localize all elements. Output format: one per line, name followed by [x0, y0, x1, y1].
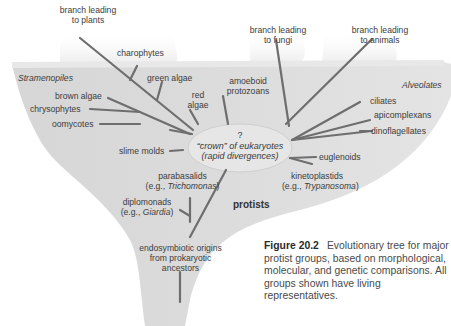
- kinetoplastids-line1: kinetoplastids: [282, 171, 352, 181]
- group-stramenopiles: Stramenopiles: [18, 73, 73, 83]
- label-oomycotes: oomycotes: [52, 119, 94, 129]
- branch-animals-line1: branch leading: [345, 25, 415, 35]
- label-diplomonads: diplomonads (e.g., Giardia): [116, 197, 178, 217]
- crown-line2: (rapid divergences): [188, 151, 292, 162]
- parabasalids-close: ): [217, 181, 220, 191]
- label-parabasalids: parabasalids (e.g., Trichomonas): [140, 171, 225, 191]
- crown-label: ? “crown” of eukaryotes (rapid divergenc…: [188, 130, 292, 162]
- red-algae-line2: algae: [186, 100, 210, 110]
- kinetoplastids-close: ): [356, 181, 359, 191]
- parabasalids-example: (e.g., Trichomonas): [140, 181, 225, 191]
- label-ciliates: ciliates: [370, 96, 396, 106]
- label-endosymbiotic-origins: endosymbiotic origins from prokaryotic a…: [133, 243, 228, 273]
- label-slime-molds: slime molds: [119, 146, 164, 156]
- kinetoplastids-example: (e.g., Trypanosoma): [282, 181, 352, 191]
- crown-question-mark: ?: [188, 130, 292, 141]
- parabasalids-genus: Trichomonas: [168, 181, 217, 191]
- diplomonads-genus: Giardia: [143, 207, 171, 217]
- label-chrysophytes: chrysophytes: [30, 104, 81, 114]
- label-kinetoplastids: kinetoplastids (e.g., Trypanosoma): [282, 171, 352, 191]
- branch-plants-label: branch leading to plants: [48, 5, 128, 25]
- branch-fungi-line2: to fungi: [243, 35, 313, 45]
- kinetoplastids-genus: Trypanosoma: [304, 181, 356, 191]
- protists-label: protists: [233, 199, 270, 210]
- figure-number: Figure 20.2: [264, 240, 319, 251]
- label-green-algae: green algae: [147, 73, 192, 83]
- amoeboid-line2: protozoans: [217, 86, 279, 96]
- endosymbiotic-line1: endosymbiotic origins: [133, 243, 228, 253]
- diplomonads-example: (e.g., Giardia): [116, 207, 178, 217]
- label-brown-algae: brown algae: [55, 91, 102, 101]
- branch-plants-line2: to plants: [48, 15, 128, 25]
- figure-caption: Figure 20.2Evolutionary tree for major p…: [264, 240, 451, 303]
- label-apicomplexans: apicomplexans: [374, 110, 431, 120]
- diplomonads-close: ): [170, 207, 173, 217]
- diplomonads-eg: (e.g.,: [121, 207, 143, 217]
- endosymbiotic-line2: from prokaryotic: [133, 253, 228, 263]
- endosymbiotic-line3: ancestors: [133, 263, 228, 273]
- branch-plants-line1: branch leading: [48, 5, 128, 15]
- parabasalids-eg: (e.g.,: [146, 181, 168, 191]
- diplomonads-line1: diplomonads: [116, 197, 178, 207]
- amoeboid-line1: amoeboid: [217, 76, 279, 86]
- label-red-algae: red algae: [186, 90, 210, 110]
- parabasalids-line1: parabasalids: [140, 171, 225, 181]
- group-alveolates: Alveolates: [402, 80, 442, 90]
- label-dinoflagellates: dinoflagellates: [371, 126, 426, 136]
- branch-fungi-label: branch leading to fungi: [243, 25, 313, 45]
- label-amoeboid-protozoans: amoeboid protozoans: [217, 76, 279, 96]
- crown-line1: “crown” of eukaryotes: [188, 141, 292, 152]
- red-algae-line1: red: [186, 90, 210, 100]
- kinetoplastids-eg: (e.g.,: [282, 181, 304, 191]
- label-charophytes: charophytes: [117, 48, 164, 58]
- branch-animals-line2: to animals: [345, 35, 415, 45]
- branch-fungi-line1: branch leading: [243, 25, 313, 35]
- branch-animals-label: branch leading to animals: [345, 25, 415, 45]
- label-euglenoids: euglenoids: [319, 152, 361, 162]
